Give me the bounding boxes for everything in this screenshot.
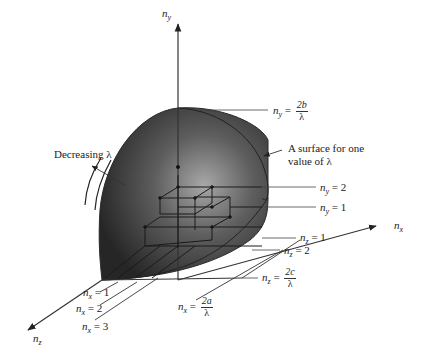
ny2-label: ny = 2: [320, 182, 346, 193]
decreasing-lambda-label: Decreasing λ: [54, 149, 112, 160]
nz-intercept-label: nz = 2cλ: [262, 267, 296, 289]
nx2-label: nx = 2: [76, 303, 102, 314]
nx3-line: [95, 278, 158, 320]
nx3-label: nx = 3: [82, 321, 108, 332]
ny-axis-label: ny: [162, 8, 171, 19]
surface-label-line2: value of λ: [288, 156, 332, 167]
nx-intercept-label: nx = 2aλ: [178, 296, 213, 318]
ny-intercept-label: ny = 2bλ: [273, 100, 308, 122]
nz2-label: nz = 2: [284, 245, 310, 256]
nx1-label: nx = 1: [83, 287, 109, 298]
decreasing-arc-1: [85, 158, 101, 205]
nz-axis-label: nz: [33, 333, 42, 344]
mode-lattice-diagram: ny nx nz ny = 2bλ A surface for one valu…: [0, 0, 423, 361]
surface-label-line1: A surface for one: [288, 143, 364, 154]
nx-axis-label: nx: [394, 220, 403, 231]
ny1-label: ny = 1: [320, 202, 346, 213]
nz1-label: nz = 1: [300, 232, 326, 243]
